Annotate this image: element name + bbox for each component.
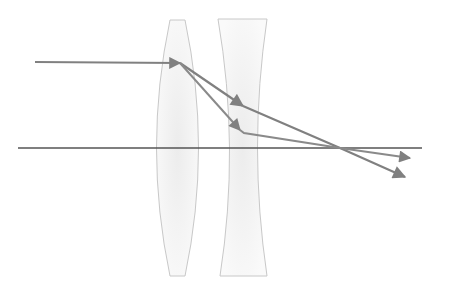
lens-ray-diagram bbox=[0, 0, 450, 285]
ray-segment-2-lower bbox=[240, 130, 410, 158]
ray-segment-2-upper bbox=[243, 106, 405, 177]
incident-ray bbox=[35, 62, 180, 63]
